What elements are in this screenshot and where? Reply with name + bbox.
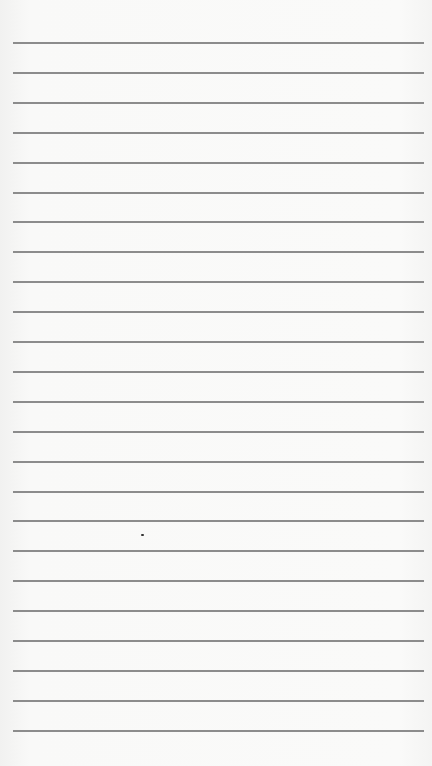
ruled-line xyxy=(13,461,424,463)
ruled-line xyxy=(13,610,424,612)
ruled-line xyxy=(13,371,424,373)
ruled-line xyxy=(13,580,424,582)
ruled-line xyxy=(13,401,424,403)
ruled-line xyxy=(13,192,424,194)
ruled-line xyxy=(13,311,424,313)
ruled-line xyxy=(13,670,424,672)
ruled-line xyxy=(13,102,424,104)
ruled-line xyxy=(13,730,424,732)
ink-speck xyxy=(141,534,144,536)
ruled-line xyxy=(13,281,424,283)
ruled-line xyxy=(13,341,424,343)
ruled-line xyxy=(13,491,424,493)
lined-paper-page xyxy=(0,0,432,766)
ruled-line xyxy=(13,640,424,642)
ruled-line xyxy=(13,550,424,552)
ruled-line xyxy=(13,520,424,522)
ruled-line xyxy=(13,42,424,44)
ruled-line xyxy=(13,221,424,223)
ruled-line xyxy=(13,700,424,702)
ruled-line xyxy=(13,162,424,164)
ruled-line xyxy=(13,251,424,253)
ruled-line xyxy=(13,431,424,433)
ruled-line xyxy=(13,132,424,134)
ruled-line xyxy=(13,72,424,74)
